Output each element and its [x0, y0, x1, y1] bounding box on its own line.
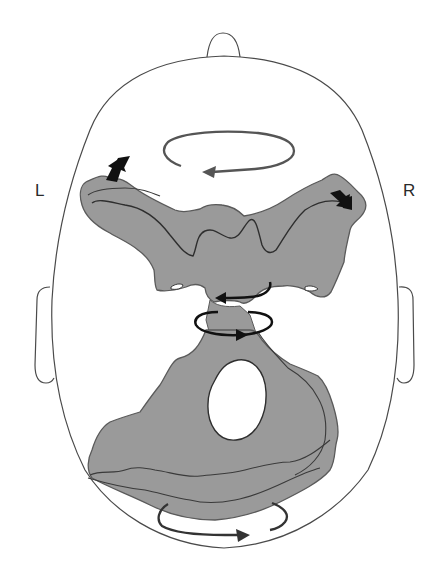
left-side-label: L [35, 182, 44, 199]
right-ear-outline [397, 287, 414, 383]
right-side-label: R [403, 182, 415, 199]
nose-outline [207, 33, 240, 57]
left-ear-outline [35, 287, 54, 383]
head-diagram [0, 0, 437, 568]
